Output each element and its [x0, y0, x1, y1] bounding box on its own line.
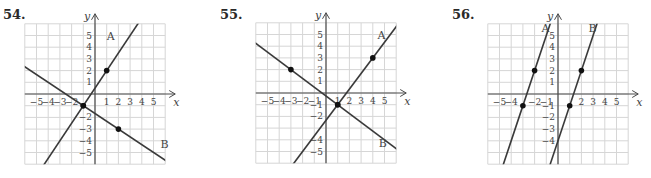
y-axis-label: y: [314, 9, 322, 22]
svg-text:4: 4: [549, 42, 555, 52]
svg-text:3: 3: [317, 53, 323, 63]
line-label-b: B: [588, 22, 596, 35]
svg-text:1: 1: [549, 77, 555, 87]
svg-text:2: 2: [549, 66, 555, 76]
point-marker: [335, 102, 341, 108]
svg-text:2: 2: [86, 66, 92, 76]
svg-text:1: 1: [317, 76, 323, 86]
svg-text:2: 2: [579, 97, 585, 107]
svg-text:4: 4: [602, 97, 608, 107]
svg-text:1: 1: [104, 97, 110, 107]
graph-55: xy−5−4−3−2−11234554321−1−2−4−5AB: [244, 9, 411, 178]
line-label-a: A: [376, 29, 386, 42]
svg-text:−2: −2: [542, 112, 555, 122]
svg-text:4: 4: [86, 42, 92, 52]
coordinate-planes: xy−5−4−3−21234554321−2−3−4−5AB xy−5−4−3−…: [0, 0, 651, 178]
point-marker: [370, 55, 376, 61]
svg-text:3: 3: [358, 96, 364, 106]
line-label-a: A: [541, 22, 551, 35]
svg-text:−4: −4: [79, 136, 93, 146]
point-marker: [579, 68, 585, 74]
svg-text:4: 4: [317, 41, 323, 51]
svg-text:−1: −1: [542, 101, 555, 111]
point-marker: [288, 67, 294, 73]
svg-text:−3: −3: [79, 124, 93, 134]
svg-text:5: 5: [549, 31, 555, 41]
svg-text:4: 4: [370, 96, 376, 106]
x-axis-label: x: [404, 95, 411, 108]
x-axis-label: x: [636, 96, 643, 109]
svg-text:−2: −2: [79, 112, 92, 122]
point-marker: [532, 68, 538, 74]
point-marker: [567, 103, 573, 109]
tick-labels: −5−4−2−1234554321−1−2−3−4: [493, 31, 620, 146]
line-label-a: A: [106, 30, 116, 43]
svg-text:2: 2: [317, 65, 323, 75]
svg-text:−3: −3: [542, 124, 556, 134]
svg-text:2: 2: [347, 96, 353, 106]
line-label-b: B: [161, 138, 169, 151]
graph-54: xy−5−4−3−21234554321−2−3−4−5AB: [13, 0, 180, 178]
point-marker: [104, 68, 110, 74]
svg-text:2: 2: [116, 97, 122, 107]
svg-text:−2: −2: [310, 111, 323, 121]
svg-text:5: 5: [614, 97, 620, 107]
point-marker: [520, 103, 526, 109]
x-axis-label: x: [173, 96, 180, 109]
svg-text:3: 3: [590, 97, 596, 107]
svg-text:1: 1: [86, 77, 92, 87]
svg-text:−4: −4: [542, 136, 556, 146]
svg-text:5: 5: [317, 30, 323, 40]
svg-text:3: 3: [86, 54, 92, 64]
svg-text:−5: −5: [310, 147, 324, 157]
y-axis-label: y: [83, 10, 91, 23]
svg-text:−4: −4: [505, 97, 519, 107]
line-label-b: B: [379, 137, 387, 150]
svg-text:4: 4: [139, 97, 145, 107]
exercise-graphs: 54. 55. 56. xy−5−4−3−21234554321−2−3−4−5…: [0, 0, 651, 178]
svg-text:5: 5: [86, 31, 92, 41]
svg-text:5: 5: [151, 97, 157, 107]
point-marker: [116, 126, 122, 132]
point-marker: [81, 103, 87, 109]
y-axis-label: y: [546, 10, 554, 23]
svg-text:5: 5: [382, 96, 388, 106]
svg-text:−1: −1: [310, 100, 323, 110]
graph-56: xy−5−4−2−1234554321−1−2−3−4AB: [476, 0, 643, 178]
svg-text:3: 3: [127, 97, 133, 107]
svg-text:3: 3: [549, 54, 555, 64]
svg-text:−5: −5: [79, 148, 93, 158]
